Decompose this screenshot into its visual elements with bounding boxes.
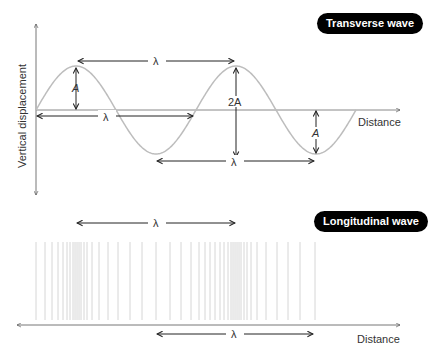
transverse-wave-title: Transverse wave [317,13,423,34]
double-amplitude-label: 2A [228,96,242,108]
longitudinal-section: λ λ Distance [17,216,400,345]
x-axis-label-transverse: Distance [358,116,401,128]
wavelength-label-longitudinal-top: λ [153,217,159,229]
longitudinal-wave-title: Longitudinal wave [314,211,428,232]
wavelength-label-longitudinal-bottom: λ [231,328,237,340]
transverse-section: A 2A A λ λ λ Distance Vertical displacem… [16,24,401,195]
x-axis-label-longitudinal: Distance [357,333,400,345]
wave-diagram: A 2A A λ λ λ Distance Vertical displacem… [0,0,428,358]
wavelength-label-top: λ [153,55,159,67]
wavelength-label-middle: λ [103,111,109,123]
compression-lines [36,242,315,320]
y-axis-label: Vertical displacement [16,64,28,168]
amplitude-label: A [71,82,79,94]
amplitude-label-2: A [311,127,319,139]
wavelength-label-bottom: λ [231,156,237,168]
